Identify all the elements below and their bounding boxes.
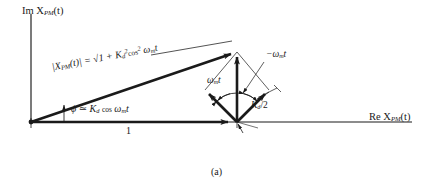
axis-label-imaginary-subscript: PM [44, 9, 54, 16]
phase-kd-subscript: d [96, 107, 99, 114]
omega-positive-symbol: ω [207, 75, 214, 85]
carrier-unit-phasor [29, 120, 228, 125]
kd-half-divisor: /2 [260, 100, 267, 110]
phasor-diagram-figure: Im XPM(t) Re XPM(t) |XPM(t)| = √1 + Kd2c… [0, 0, 445, 192]
magnitude-formula-rule [151, 41, 232, 55]
kd-half-label: Kd/2 [251, 101, 268, 111]
axis-label-real-argument: (t) [401, 111, 411, 122]
omega-positive-label: ωmt [207, 76, 221, 86]
diagram-canvas [0, 0, 445, 192]
phase-approx-equals: ≃ K [79, 103, 97, 114]
magnitude-cos-exponent: 2 [137, 45, 141, 52]
axis-label-imaginary-argument: (t) [54, 5, 64, 16]
phase-angle-label: ϕ ≃ Kd cos ωmt [71, 104, 129, 115]
rotation-angle-arc-positive [217, 93, 238, 102]
omega-positive-time-variable: t [218, 75, 221, 85]
axis-label-imaginary: Im XPM(t) [22, 6, 64, 17]
axis-label-real-prefix: Re X [369, 111, 391, 122]
axis-label-imaginary-prefix: Im X [22, 5, 44, 16]
omega-negative-leader-line [243, 62, 264, 93]
axis-label-real: Re XPM(t) [369, 112, 411, 123]
omega-negative-symbol: −ω [266, 49, 279, 59]
unit-magnitude-label: 1 [126, 126, 131, 136]
sideband-phasor-positive [209, 94, 237, 122]
phase-cos: cos [102, 105, 112, 114]
kd-half-leader-line [262, 85, 281, 97]
figure-caption: (a) [211, 167, 222, 177]
omega-negative-time-variable: t [284, 49, 287, 59]
axis-label-real-subscript: PM [391, 115, 401, 122]
base-vertex-angle-tick [237, 122, 258, 133]
phase-time-variable: t [126, 103, 129, 114]
omega-negative-label: −ωmt [266, 50, 286, 60]
phase-symbol: ϕ [71, 103, 76, 114]
